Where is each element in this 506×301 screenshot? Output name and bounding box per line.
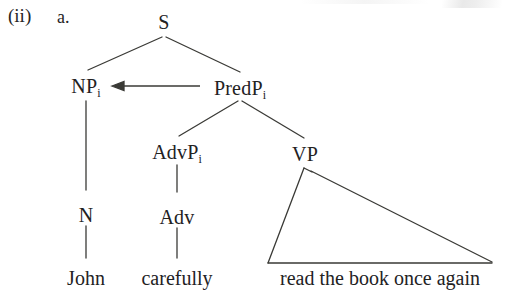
branch-s-predp	[166, 37, 240, 72]
tree-node-advp: AdvPi	[152, 142, 202, 162]
tree-node-predp: PredPi	[214, 78, 266, 98]
tree-node-advp-label: AdvP	[152, 141, 198, 163]
movement-arrow-head	[112, 82, 124, 91]
tree-node-predp-subscript: i	[263, 88, 266, 102]
scan-artifact-top	[300, 0, 430, 4]
triangle-left-side	[268, 168, 304, 263]
branch-s-np	[88, 37, 162, 70]
triangle-right-side	[311, 171, 492, 262]
figure-item-label: a.	[57, 8, 70, 26]
tree-node-adv-label: Adv	[159, 206, 194, 228]
tree-node-advp-subscript: i	[199, 152, 202, 166]
tree-node-n-label: N	[79, 204, 94, 226]
tree-branch-lines	[0, 0, 506, 301]
tree-node-vp: VP	[292, 144, 318, 164]
tree-node-np: NPi	[71, 76, 100, 96]
tree-node-predp-label: PredP	[214, 77, 263, 99]
syntax-tree-figure: (ii) a.	[0, 0, 506, 301]
tree-node-n: N	[79, 205, 94, 225]
branch-predp-vp	[242, 101, 304, 138]
tree-node-adv: Adv	[159, 207, 194, 227]
tree-node-np-subscript: i	[97, 86, 100, 100]
tree-leaf-john: John	[67, 268, 105, 288]
scan-artifact-page-number	[442, 0, 502, 8]
tree-node-s: S	[158, 12, 169, 32]
tree-leaf-vp-string: read the book once again	[280, 268, 480, 288]
movement-arrow	[112, 82, 200, 91]
figure-enumeration-label: (ii)	[8, 6, 31, 25]
tree-node-np-label: NP	[71, 75, 97, 97]
tree-node-vp-label: VP	[292, 143, 318, 165]
tree-node-s-label: S	[158, 11, 169, 33]
triangle-apex-cap	[304, 168, 312, 172]
tree-leaf-carefully: carefully	[141, 268, 212, 288]
branch-predp-advp	[179, 101, 238, 136]
